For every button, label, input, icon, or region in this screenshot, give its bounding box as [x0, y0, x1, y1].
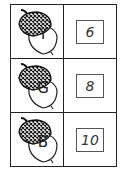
acorn-cell: Y — [11, 5, 64, 58]
number-cell: 10 — [64, 113, 116, 167]
acorn-letter: G — [35, 79, 51, 97]
acorn-cell: G — [11, 59, 64, 112]
number-cell: 6 — [64, 5, 116, 58]
number-cell: 8 — [64, 59, 116, 112]
acorn-letter: Y — [35, 25, 51, 43]
grid-row: B 10 — [11, 113, 116, 167]
acorn-number-grid: Y 6 G 8 — [10, 4, 117, 167]
grid-row: G 8 — [11, 59, 116, 113]
acorn-cell: B — [11, 113, 64, 167]
number-box: 8 — [76, 74, 104, 98]
grid-row: Y 6 — [11, 5, 116, 59]
number-box: 10 — [76, 128, 104, 152]
acorn-letter: B — [35, 133, 51, 151]
number-box: 6 — [76, 20, 104, 44]
